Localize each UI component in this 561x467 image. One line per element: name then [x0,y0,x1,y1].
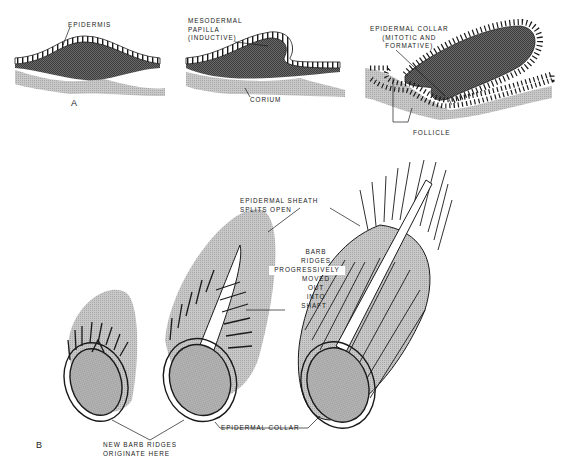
feather-development-diagram [0,0,561,467]
label-epidermis: EPIDERMIS [68,21,111,30]
leader-sheath [330,208,360,226]
panel-b-stage-1 [54,290,138,430]
label-barb-4: MOVED [290,275,342,284]
label-epidermal-collar-b: EPIDERMAL COLLAR [221,424,299,433]
leader-new-barb-ridges [112,420,184,440]
label-barb-2: RIDGES [290,257,342,266]
label-sheath-splits-open: EPIDERMAL SHEATH SPLITS OPEN [240,197,318,214]
label-barb-7: SHAFT [288,302,340,311]
label-barb-5: OUT [290,284,342,293]
label-barb-6: INTO [290,293,342,302]
label-mesodermal-papilla: MESODERMAL PAPILLA (INDUCTIVE) [188,17,242,43]
label-corium: CORIUM [250,96,281,105]
label-new-barb-ridges: NEW BARB RIDGES ORIGINATE HERE [103,441,177,458]
label-follicle: FOLLICLE [413,129,450,138]
label-barb-1: BARB [290,248,342,257]
label-epidermal-collar-a: EPIDERMAL COLLAR (MITOTIC AND FORMATIVE) [370,25,448,51]
panel-a-stage-1 [15,27,165,96]
panel-letter-b: B [36,440,42,450]
panel-b-stage-2 [153,208,300,431]
panel-letter-a: A [71,98,77,108]
label-barb-3: PROGRESSIVELY [269,266,345,275]
